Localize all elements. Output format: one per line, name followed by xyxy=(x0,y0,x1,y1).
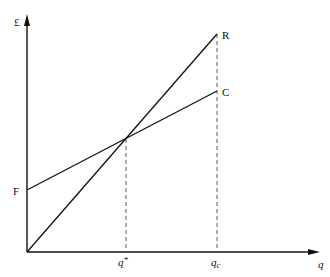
capacity-quantity-label: qc xyxy=(211,256,221,270)
fixed-cost-label: F xyxy=(13,185,19,197)
y-axis-arrow-icon xyxy=(24,14,30,26)
x-axis-label: q xyxy=(318,258,324,270)
cost-label: C xyxy=(222,86,229,98)
break-even-quantity-label: q* xyxy=(118,255,129,268)
y-axis-label: £ xyxy=(14,16,20,28)
revenue-label: R xyxy=(222,29,230,41)
revenue-line xyxy=(27,34,217,252)
break-even-diagram: £ q R C F q* qc xyxy=(0,0,330,277)
x-axis-arrow-icon xyxy=(308,249,320,255)
cost-line xyxy=(27,91,217,190)
